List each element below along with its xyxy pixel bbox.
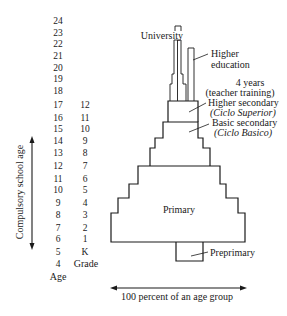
preprimary-leader	[191, 252, 208, 256]
age-tick: 4	[56, 259, 61, 269]
grade-axis: 12 11 10 9 8 7 6 5 4 3 2 1 K Grade	[74, 100, 99, 269]
arrow-left-icon	[110, 286, 117, 291]
higher-education-label-line2: education	[211, 59, 250, 70]
grade-tick: 8	[83, 148, 88, 158]
higher-secondary-block	[168, 101, 198, 122]
arrow-up-icon	[30, 136, 35, 143]
basic-secondary-alt-label: (Ciclo Basico)	[214, 127, 273, 139]
age-tick: 8	[56, 210, 61, 220]
age-tick: 12	[53, 161, 63, 171]
arrow-right-icon	[240, 286, 247, 291]
level-labels: University Higher education 4 years (tea…	[141, 30, 279, 258]
age-tick: 18	[53, 86, 63, 96]
age-tick: 6	[56, 234, 61, 244]
age-tick: 21	[53, 51, 63, 61]
grade-tick: 10	[80, 124, 90, 134]
age-tick: 16	[53, 113, 63, 123]
age-axis-label: Age	[50, 271, 67, 282]
width-scale-indicator: 100 percent of an age group	[110, 286, 247, 303]
higher-education-label-line1: Higher	[211, 48, 239, 59]
age-tick: 19	[53, 74, 63, 84]
age-tick: 22	[53, 39, 63, 49]
university-spire	[170, 40, 186, 101]
grade-tick: 12	[80, 100, 90, 110]
arrow-down-icon	[30, 243, 35, 250]
preprimary-label: Preprimary	[210, 247, 255, 258]
grade-tick: 1	[83, 234, 88, 244]
width-scale-label: 100 percent of an age group	[121, 291, 233, 302]
basic-secondary-leader	[189, 124, 209, 132]
education-pyramid-diagram: 24 23 22 21 20 19 18 17 16 15 14 13 12 1…	[0, 0, 287, 316]
grade-tick: 3	[83, 210, 88, 220]
age-tick: 23	[53, 28, 63, 38]
grade-tick: 6	[83, 174, 88, 184]
age-tick: 15	[53, 124, 63, 134]
age-tick: 20	[53, 63, 63, 73]
age-tick: 10	[53, 185, 63, 195]
age-axis: 24 23 22 21 20 19 18 17 16 15 14 13 12 1…	[50, 16, 67, 282]
primary-label: Primary	[163, 204, 195, 215]
grade-axis-label: Grade	[74, 258, 99, 269]
compulsory-age-label: Compulsory school age	[14, 144, 25, 239]
age-tick: 7	[56, 223, 61, 233]
basic-secondary-block	[150, 122, 210, 166]
age-tick: 5	[56, 247, 61, 257]
grade-tick: 4	[83, 198, 88, 208]
age-tick: 24	[53, 16, 63, 26]
age-tick: 9	[56, 198, 61, 208]
preprimary-block	[176, 242, 203, 261]
grade-tick: 5	[83, 185, 88, 195]
higher-education-leader	[193, 54, 208, 60]
grade-tick: K	[82, 247, 89, 257]
age-tick: 17	[53, 100, 63, 110]
grade-tick: 7	[83, 161, 88, 171]
age-tick: 11	[53, 174, 62, 184]
grade-tick: 9	[83, 136, 88, 146]
age-tick: 14	[53, 136, 63, 146]
university-label: University	[141, 30, 183, 41]
teacher-training-bar	[188, 48, 194, 101]
compulsory-age-indicator: Compulsory school age	[14, 136, 35, 250]
age-tick: 13	[53, 148, 63, 158]
grade-tick: 2	[83, 223, 88, 233]
grade-tick: 11	[80, 113, 89, 123]
